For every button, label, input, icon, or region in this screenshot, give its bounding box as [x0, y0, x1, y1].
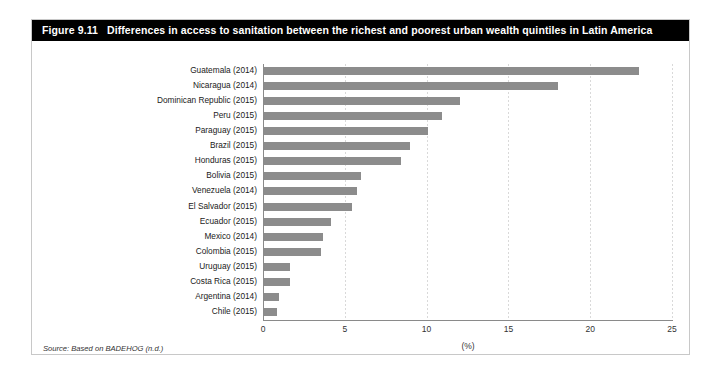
bar-category-label: Argentina (2014)	[195, 291, 257, 302]
x-tick-label: 5	[342, 324, 347, 334]
bar-category-label: Mexico (2014)	[204, 231, 257, 242]
bar-category-label: Honduras (2015)	[195, 155, 257, 166]
bar	[264, 157, 401, 165]
bar-row: Costa Rica (2015)	[263, 275, 672, 289]
source-note: Source: Based on BADEHOG (n.d.)	[43, 344, 163, 353]
bar-row: Nicaragua (2014)	[263, 79, 672, 93]
gridline-25	[672, 64, 673, 320]
bar-row: Uruguay (2015)	[263, 260, 672, 274]
plot-area: Guatemala (2014)Nicaragua (2014)Dominica…	[263, 64, 672, 320]
bar	[264, 233, 323, 241]
x-axis-title: (%)	[263, 341, 673, 351]
bar-row: Peru (2015)	[263, 109, 672, 123]
bar-category-label: Ecuador (2015)	[200, 216, 257, 227]
x-tick-label: 15	[504, 324, 513, 334]
bar-row: Guatemala (2014)	[263, 64, 672, 78]
bar-row: Dominican Republic (2015)	[263, 94, 672, 108]
x-axis-line	[263, 320, 673, 321]
bar-category-label: El Salvador (2015)	[188, 201, 257, 212]
bar	[264, 263, 290, 271]
bar	[264, 218, 331, 226]
bar-category-label: Costa Rica (2015)	[190, 276, 257, 287]
bar-category-label: Venezuela (2014)	[192, 185, 257, 196]
bar-row: Argentina (2014)	[263, 290, 672, 304]
bar	[264, 172, 361, 180]
bar-category-label: Dominican Republic (2015)	[157, 95, 257, 106]
bar-row: Colombia (2015)	[263, 245, 672, 259]
bar-row: Honduras (2015)	[263, 154, 672, 168]
bar-row: Brazil (2015)	[263, 139, 672, 153]
bar	[264, 67, 639, 75]
x-tick-label: 20	[585, 324, 594, 334]
bar-category-label: Brazil (2015)	[210, 140, 257, 151]
bar-row: Mexico (2014)	[263, 230, 672, 244]
figure-container: Figure 9.11Differences in access to sani…	[31, 19, 690, 355]
figure-title-bar: Figure 9.11Differences in access to sani…	[32, 20, 689, 41]
plot-wrapper: Guatemala (2014)Nicaragua (2014)Dominica…	[32, 41, 689, 354]
figure-title-text: Differences in access to sanitation betw…	[107, 24, 652, 36]
x-tick-label: 10	[422, 324, 431, 334]
bar-row: Bolivia (2015)	[263, 169, 672, 183]
x-tick-label: 0	[261, 324, 266, 334]
bar	[264, 203, 352, 211]
bar	[264, 97, 460, 105]
figure-number: Figure 9.11	[42, 24, 98, 36]
bar-row: El Salvador (2015)	[263, 200, 672, 214]
bar-row: Venezuela (2014)	[263, 184, 672, 198]
bar	[264, 127, 428, 135]
bar	[264, 308, 277, 316]
bar	[264, 142, 410, 150]
bar-row: Paraguay (2015)	[263, 124, 672, 138]
bar-category-label: Guatemala (2014)	[190, 65, 257, 76]
bar	[264, 293, 279, 301]
bar	[264, 187, 357, 195]
bar	[264, 112, 442, 120]
bar-category-label: Nicaragua (2014)	[193, 80, 257, 91]
bar	[264, 278, 290, 286]
bar-row: Ecuador (2015)	[263, 215, 672, 229]
x-tick-label: 25	[667, 324, 676, 334]
bar-category-label: Uruguay (2015)	[199, 261, 257, 272]
bar-category-label: Colombia (2015)	[196, 246, 257, 257]
bar-row: Chile (2015)	[263, 305, 672, 319]
figure-title: Figure 9.11Differences in access to sani…	[42, 24, 652, 36]
bar	[264, 82, 558, 90]
bar-category-label: Bolivia (2015)	[206, 170, 257, 181]
bar-category-label: Paraguay (2015)	[195, 125, 257, 136]
bar	[264, 248, 321, 256]
bar-category-label: Peru (2015)	[213, 110, 257, 121]
bar-category-label: Chile (2015)	[212, 306, 257, 317]
